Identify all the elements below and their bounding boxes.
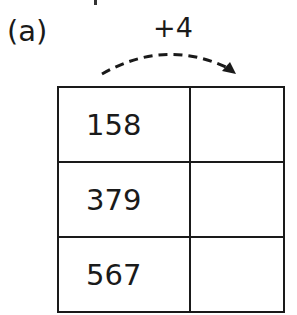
number-table: 158 379 567 — [57, 86, 285, 313]
input-cell: 567 — [58, 237, 190, 312]
output-cell[interactable] — [190, 162, 284, 237]
output-cell[interactable] — [190, 237, 284, 312]
input-cell: 379 — [58, 162, 190, 237]
table-row: 567 — [58, 237, 284, 312]
table-row: 379 — [58, 162, 284, 237]
input-cell: 158 — [58, 87, 190, 162]
dashed-arrow-icon — [0, 0, 297, 90]
table-row: 158 — [58, 87, 284, 162]
output-cell[interactable] — [190, 87, 284, 162]
